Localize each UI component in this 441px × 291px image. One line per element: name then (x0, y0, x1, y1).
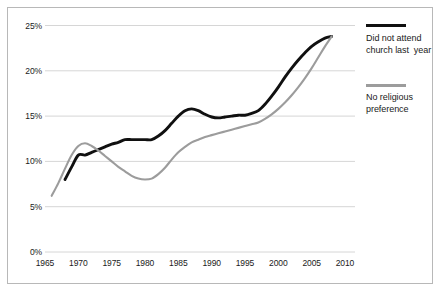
x-tick-label: 1995 (230, 258, 260, 268)
legend-swatch-no-religious-preference (366, 84, 406, 87)
legend-swatch-did-not-attend-church (366, 24, 406, 27)
x-tick-label: 2005 (297, 258, 327, 268)
x-tick-label: 1970 (63, 258, 93, 268)
chart-figure: 0%5%10%15%20%25% 19651970197519801985199… (0, 0, 441, 291)
y-tick-label: 0% (16, 247, 42, 257)
y-tick-label: 10% (16, 156, 42, 166)
series-line-did-not-attend-church (65, 36, 332, 179)
x-tick-label: 1980 (130, 258, 160, 268)
legend-label-did-not-attend-church: Did not attend church last year (366, 33, 438, 56)
y-tick-label: 5% (16, 202, 42, 212)
x-tick-label: 1990 (197, 258, 227, 268)
x-tick-label: 1965 (30, 258, 60, 268)
x-tick-label: 2000 (263, 258, 293, 268)
y-tick-label: 15% (16, 111, 42, 121)
x-tick-label: 1985 (163, 258, 193, 268)
x-tick-label: 1975 (97, 258, 127, 268)
y-tick-label: 25% (16, 21, 42, 31)
y-tick-label: 20% (16, 66, 42, 76)
x-tick-label: 2010 (330, 258, 360, 268)
legend-label-no-religious-preference: No religious preference (366, 92, 438, 115)
